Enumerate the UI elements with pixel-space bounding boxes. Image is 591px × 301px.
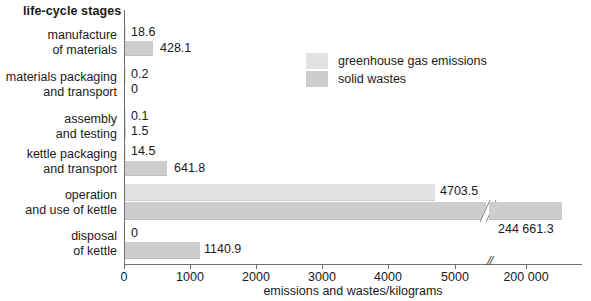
category-label-kettle-packaging: kettle packaging and transport xyxy=(27,147,117,176)
x-tick-label-4000: 4000 xyxy=(374,270,402,284)
category-label-line1: kettle packaging xyxy=(27,147,117,162)
legend-swatch-waste-icon xyxy=(306,71,328,87)
legend-label-ghg: greenhouse gas emissions xyxy=(338,54,487,68)
x-tick-label-1000: 1000 xyxy=(176,270,204,284)
bar-ghg-materials-packaging xyxy=(125,68,126,82)
bar-value-ghg-operation: 4703.5 xyxy=(440,184,478,198)
bar-value-ghg-manufacture: 18.6 xyxy=(131,25,155,39)
bar-waste-operation-segment-1 xyxy=(125,202,486,220)
category-label-disposal: disposal of kettle xyxy=(71,229,117,258)
x-tick-mark-1000 xyxy=(190,264,191,269)
category-label-line1: assembly xyxy=(56,112,117,127)
x-tick-mark-0 xyxy=(124,264,125,269)
category-label-line1: materials packaging xyxy=(6,70,117,85)
bar-waste-disposal xyxy=(125,242,200,259)
x-tick-mark-200000 xyxy=(526,264,527,269)
x-axis-break-symbol: // xyxy=(487,254,492,267)
bar-value-ghg-materials-packaging: 0.2 xyxy=(131,67,148,81)
bar-ghg-kettle-packaging xyxy=(125,145,126,160)
category-label-assembly: assembly and testing xyxy=(56,112,117,141)
category-label-materials-packaging: materials packaging and transport xyxy=(6,70,117,99)
x-axis-line xyxy=(124,264,582,265)
bar-value-waste-disposal: 1140.9 xyxy=(204,242,241,256)
bar-value-waste-assembly: 1.5 xyxy=(131,124,148,138)
category-label-line1: operation xyxy=(25,188,117,203)
x-tick-label-3000: 3000 xyxy=(308,270,336,284)
bar-waste-manufacture xyxy=(125,41,153,56)
bar-ghg-operation xyxy=(125,184,435,201)
x-tick-label-5000: 5000 xyxy=(441,270,469,284)
category-label-line2: of materials xyxy=(48,43,117,58)
category-label-operation: operation and use of kettle xyxy=(25,188,117,217)
x-axis-title: emissions and wastes/kilograms xyxy=(124,284,582,298)
bar-waste-operation-segment-2 xyxy=(489,202,562,220)
bar-value-ghg-kettle-packaging: 14.5 xyxy=(131,144,155,158)
category-label-line1: disposal xyxy=(71,229,117,244)
bar-value-waste-operation: 244 661.3 xyxy=(498,222,554,236)
bar-value-waste-kettle-packaging: 641.8 xyxy=(174,161,205,175)
bar-value-waste-manufacture: 428.1 xyxy=(160,41,191,55)
category-label-manufacture: manufacture of materials xyxy=(48,28,117,57)
page-title: life-cycle stages xyxy=(23,4,121,18)
bar-ghg-manufacture xyxy=(125,26,126,40)
legend-label-waste: solid wastes xyxy=(338,72,406,86)
category-label-line1: manufacture xyxy=(48,28,117,43)
bar-waste-kettle-packaging xyxy=(125,161,167,176)
x-tick-label-200000: 200 000 xyxy=(503,270,548,284)
bar-waste-assembly xyxy=(125,125,126,139)
chart-root: life-cycle stages 0 1000 2000 3000 4000 … xyxy=(0,0,591,301)
bar-value-ghg-disposal: 0 xyxy=(131,226,138,240)
category-label-line2: and transport xyxy=(6,85,117,100)
x-tick-label-0: 0 xyxy=(121,270,128,284)
x-tick-mark-3000 xyxy=(322,264,323,269)
x-tick-mark-4000 xyxy=(388,264,389,269)
x-tick-mark-2000 xyxy=(256,264,257,269)
bar-value-waste-materials-packaging: 0 xyxy=(131,82,138,96)
category-label-line2: and use of kettle xyxy=(25,203,117,218)
category-label-line2: and testing xyxy=(56,127,117,142)
category-label-line2: of kettle xyxy=(71,244,117,259)
bar-ghg-assembly xyxy=(125,110,126,124)
x-tick-mark-5000 xyxy=(455,264,456,269)
x-tick-label-2000: 2000 xyxy=(242,270,270,284)
legend-swatch-ghg-icon xyxy=(306,53,328,69)
bar-value-ghg-assembly: 0.1 xyxy=(131,109,148,123)
category-label-line2: and transport xyxy=(27,162,117,177)
